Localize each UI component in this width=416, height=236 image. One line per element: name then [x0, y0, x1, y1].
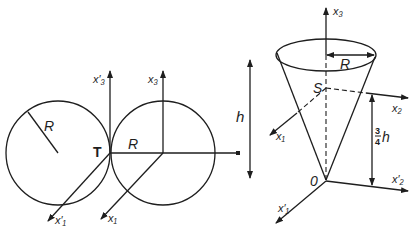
axis-x1-prime-cone-label: x′₁: [277, 202, 290, 214]
height-label: h: [236, 108, 244, 125]
axis-x2-prime-label: x′₂: [391, 173, 405, 185]
axis-x3-prime-label: x′₃: [92, 73, 106, 85]
centroid-height-denominator: 4: [375, 137, 380, 147]
horizontal-axis-end-dot: [236, 151, 240, 155]
axis-x1-left-label: x₁: [107, 212, 118, 224]
axis-x1-cone-label: x₁: [275, 130, 286, 142]
centroid-height-variable: h: [382, 129, 390, 145]
axis-x2-hidden: [326, 88, 366, 93]
centroid-label: S: [313, 80, 323, 96]
right-panel: h x₃ R S x₂ x₁ 0 x′₂ x′₁ 3: [236, 5, 408, 223]
centroid-height-label: 3 4 h: [375, 126, 390, 147]
right-radius-label: R: [128, 136, 138, 152]
centroid-height-numerator: 3: [375, 126, 380, 136]
figure-canvas: R x′₃ x₃ R T x′₁ x₁ h x₃: [0, 0, 416, 236]
axis-x1-prime: [48, 153, 110, 221]
cone-right-side: [326, 57, 375, 180]
cone-axis-x3-label: x₃: [332, 5, 344, 17]
tangent-point-label: T: [93, 144, 102, 160]
cone-left-side: [277, 53, 326, 180]
axis-x1-prime-label: x′₁: [54, 214, 67, 226]
left-panel: R x′₃ x₃ R T x′₁ x₁: [6, 71, 240, 226]
origin-label: 0: [310, 173, 318, 189]
axis-x3-left-label: x₃: [147, 73, 159, 85]
axis-x2-label: x₂: [391, 102, 403, 114]
cone-radius-label: R: [340, 56, 350, 72]
left-radius-label: R: [44, 118, 54, 134]
axis-x1-left: [101, 153, 163, 219]
